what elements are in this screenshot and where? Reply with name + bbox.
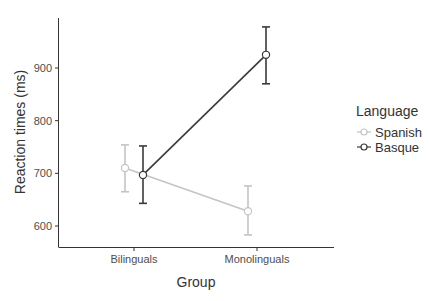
x-axis-title: Group: [177, 274, 216, 290]
data-point: [139, 171, 146, 178]
y-axis-title: Reaction times (ms): [12, 70, 28, 194]
series-spanish: [121, 145, 252, 235]
legend-label-spanish: Spanish: [375, 125, 422, 140]
interaction-plot: 600700800900 BilingualsMonolinguals Grou…: [0, 0, 429, 301]
legend-marker-icon: [361, 129, 367, 135]
legend-item-spanish: Spanish: [357, 125, 422, 140]
legend-title: Language: [356, 103, 419, 119]
y-tick-label: 800: [34, 115, 52, 127]
data-point: [244, 208, 251, 215]
x-tick-label: Monolinguals: [225, 253, 290, 265]
series-layer: [121, 27, 270, 235]
y-tick-label: 700: [34, 167, 52, 179]
legend-item-basque: Basque: [357, 140, 419, 155]
series-line: [143, 55, 266, 175]
x-tick-label: Bilinguals: [110, 253, 158, 265]
legend: Language Spanish Basque: [356, 103, 422, 155]
data-point: [262, 51, 269, 58]
legend-marker-icon: [361, 144, 367, 150]
legend-label-basque: Basque: [375, 140, 419, 155]
y-tick-label: 900: [34, 62, 52, 74]
x-axis-ticks: BilingualsMonolinguals: [110, 248, 289, 266]
data-point: [121, 164, 128, 171]
series-basque: [139, 27, 270, 203]
y-axis-ticks: 600700800900: [34, 62, 59, 232]
y-tick-label: 600: [34, 220, 52, 232]
